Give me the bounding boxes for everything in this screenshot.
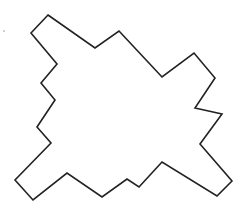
polygon-diagram — [0, 0, 246, 216]
stray-dot — [3, 30, 5, 32]
irregular-polygon — [15, 15, 232, 200]
